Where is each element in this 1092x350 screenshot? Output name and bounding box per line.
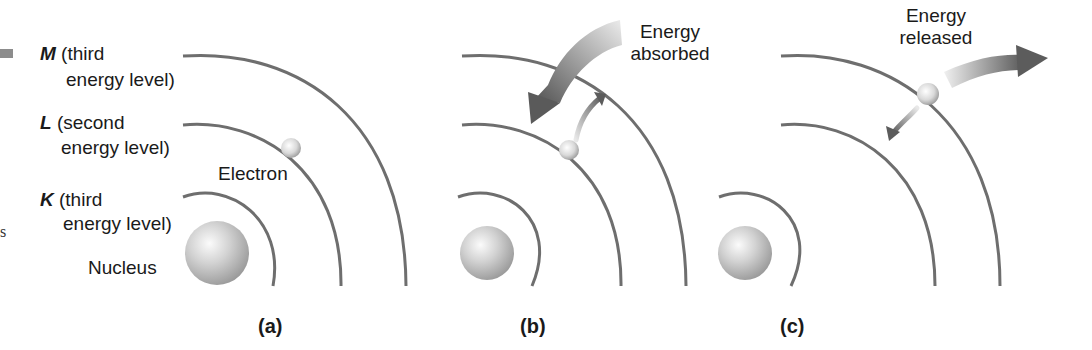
- nucleus-b: [460, 226, 514, 280]
- energy-released-line1: Energy: [888, 5, 984, 27]
- label-k-line2: energy level): [63, 213, 172, 235]
- caption-b: (b): [520, 315, 546, 338]
- diagram-artwork: [0, 0, 1092, 350]
- energy-absorbed-arrow: [536, 20, 622, 103]
- label-l-line1: (second: [57, 112, 125, 133]
- caption-c: (c): [780, 315, 804, 338]
- electron-c: [917, 83, 939, 105]
- electron-b: [559, 140, 579, 160]
- label-m-level: M (third: [40, 43, 104, 65]
- energy-released-arrowhead: [1016, 45, 1048, 77]
- orbit-l-c: [781, 124, 935, 286]
- energy-released-line2: released: [888, 27, 984, 49]
- electron-jump-up-arrow: [576, 98, 600, 140]
- electron: [281, 138, 301, 158]
- panel-a: [183, 55, 406, 286]
- level-letter-l: L: [40, 112, 52, 133]
- energy-absorbed-line1: Energy: [618, 21, 722, 43]
- label-nucleus: Nucleus: [88, 257, 157, 279]
- label-l-level: L (second: [40, 112, 125, 134]
- level-letter-m: M: [40, 43, 56, 64]
- label-k-level: K (third: [40, 189, 102, 211]
- caption-a: (a): [258, 315, 282, 338]
- label-m-line2: energy level): [66, 69, 175, 91]
- nucleus: [185, 221, 249, 285]
- label-m-line1: (third: [61, 43, 104, 64]
- level-letter-k: K: [40, 189, 54, 210]
- label-electron: Electron: [218, 163, 288, 185]
- atom-energy-level-diagram: s: [0, 0, 1092, 350]
- label-k-line1: (third: [59, 189, 102, 210]
- label-energy-absorbed: Energy absorbed: [618, 21, 722, 65]
- energy-absorbed-line2: absorbed: [618, 43, 722, 65]
- energy-released-arrow: [944, 55, 1022, 88]
- panel-c: [718, 45, 1048, 286]
- label-l-line2: energy level): [61, 137, 170, 159]
- orbit-m-c: [781, 55, 1000, 286]
- label-energy-released: Energy released: [888, 5, 984, 49]
- nucleus-c: [718, 226, 772, 280]
- electron-drop-down-arrow: [894, 108, 917, 132]
